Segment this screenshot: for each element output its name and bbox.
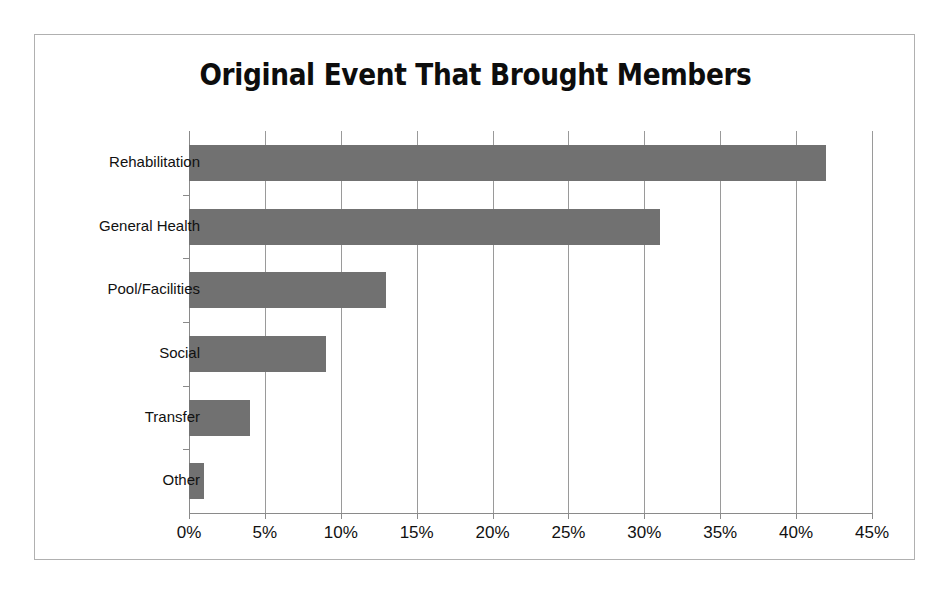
bar — [189, 272, 386, 308]
x-tick-label: 40% — [761, 523, 831, 543]
gridline-x-15 — [417, 131, 418, 513]
x-tick-label: 0% — [154, 523, 224, 543]
x-tick-mark — [872, 513, 873, 519]
category-label: General Health — [0, 217, 200, 234]
y-tick-mark — [183, 386, 189, 387]
x-tick-mark — [796, 513, 797, 519]
category-label: Other — [0, 471, 200, 488]
gridline-x-45 — [872, 131, 873, 513]
category-label: Transfer — [0, 408, 200, 425]
x-axis-line — [189, 513, 872, 514]
gridline-x-10 — [341, 131, 342, 513]
x-tick-mark — [417, 513, 418, 519]
x-tick-label: 35% — [685, 523, 755, 543]
x-tick-label: 30% — [609, 523, 679, 543]
gridline-x-30 — [644, 131, 645, 513]
bar — [189, 145, 826, 181]
x-tick-label: 5% — [230, 523, 300, 543]
x-tick-label: 10% — [306, 523, 376, 543]
x-tick-label: 25% — [533, 523, 603, 543]
x-tick-label: 20% — [458, 523, 528, 543]
category-label: Rehabilitation — [0, 153, 200, 170]
gridline-x-5 — [265, 131, 266, 513]
gridline-x-35 — [720, 131, 721, 513]
y-tick-mark — [183, 195, 189, 196]
plot-area — [189, 131, 872, 513]
category-label: Pool/Facilities — [0, 280, 200, 297]
y-tick-mark — [183, 322, 189, 323]
x-tick-mark — [189, 513, 190, 519]
gridline-x-25 — [568, 131, 569, 513]
x-tick-mark — [341, 513, 342, 519]
y-tick-mark — [183, 258, 189, 259]
chart-title: Original Event That Brought Members — [88, 57, 863, 92]
x-tick-mark — [644, 513, 645, 519]
category-label: Social — [0, 344, 200, 361]
x-tick-mark — [568, 513, 569, 519]
x-tick-mark — [265, 513, 266, 519]
gridline-x-40 — [796, 131, 797, 513]
gridline-x-0 — [189, 131, 190, 513]
bar — [189, 336, 326, 372]
x-tick-mark — [493, 513, 494, 519]
x-tick-label: 45% — [837, 523, 907, 543]
chart-frame: Original Event That Brought Members 0%5%… — [34, 34, 915, 560]
x-tick-label: 15% — [382, 523, 452, 543]
x-tick-mark — [720, 513, 721, 519]
gridline-x-20 — [493, 131, 494, 513]
bar — [189, 209, 660, 245]
y-tick-mark — [183, 449, 189, 450]
